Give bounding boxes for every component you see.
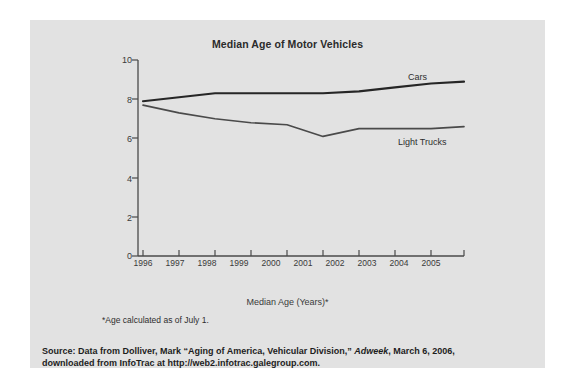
series-line-cars [143,82,464,102]
source-publication-name: Adweek [354,346,388,356]
series-label-cars: Cars [408,72,427,82]
y-tick-marks [132,60,138,256]
x-tick-marks [143,250,464,256]
series-label-light-trucks: Light Trucks [398,137,447,147]
series-line-light-trucks [143,105,464,136]
chart-footnote: *Age calculated as of July 1. [102,315,209,325]
x-axis-title: Median Age (Years)* [30,297,545,307]
source-text-line2: downloaded from InfoTrac at http://web2.… [42,358,320,368]
source-text-post: , March 6, 2006, [388,346,455,356]
chart-figure-panel: Median Age of Motor Vehicles 10 8 6 4 2 … [30,20,545,368]
source-note: Source: Data from Dolliver, Mark “Aging … [42,345,537,369]
source-text-pre: Source: Data from Dolliver, Mark “Aging … [42,346,354,356]
